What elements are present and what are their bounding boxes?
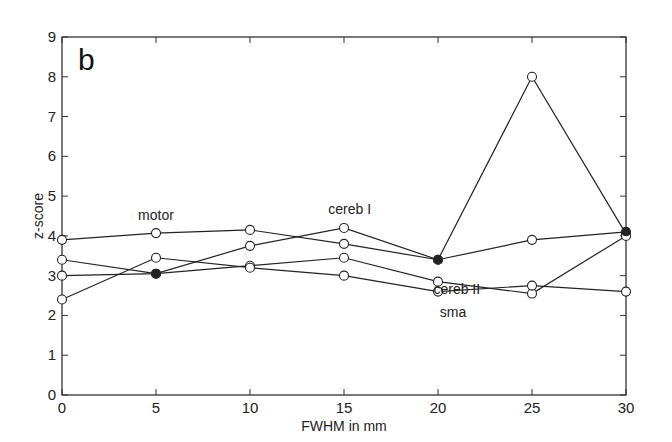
panel-label: b bbox=[78, 43, 95, 76]
y-tick-label: 0 bbox=[48, 386, 56, 403]
y-tick-label: 3 bbox=[48, 267, 56, 284]
data-marker bbox=[340, 239, 349, 248]
data-marker bbox=[58, 295, 67, 304]
x-tick-label: 25 bbox=[524, 399, 541, 416]
series-lines bbox=[58, 72, 631, 304]
data-marker bbox=[58, 255, 67, 264]
data-marker bbox=[528, 235, 537, 244]
y-tick-label: 4 bbox=[48, 227, 56, 244]
data-marker-filled bbox=[622, 228, 630, 236]
y-tick-label: 6 bbox=[48, 147, 56, 164]
data-marker bbox=[58, 235, 67, 244]
series-annotation: motor bbox=[138, 207, 174, 223]
x-tick-label: 10 bbox=[242, 399, 259, 416]
x-tick-label: 20 bbox=[430, 399, 447, 416]
data-marker bbox=[58, 271, 67, 280]
data-marker bbox=[528, 281, 537, 290]
data-marker bbox=[246, 241, 255, 250]
y-tick-label: 8 bbox=[48, 68, 56, 85]
y-tick-label: 9 bbox=[48, 28, 56, 45]
data-marker bbox=[340, 253, 349, 262]
data-marker bbox=[340, 271, 349, 280]
data-marker bbox=[246, 263, 255, 272]
x-tick-label: 5 bbox=[152, 399, 160, 416]
series-annotation: cereb II bbox=[433, 281, 480, 297]
line-chart: 0510152025300123456789 motorcereb Icereb… bbox=[0, 0, 672, 442]
data-marker bbox=[246, 225, 255, 234]
axis-ticks: 0510152025300123456789 bbox=[48, 28, 635, 416]
series-annotation: sma bbox=[440, 304, 467, 320]
y-axis-title: z-score bbox=[30, 193, 46, 239]
x-tick-label: 15 bbox=[336, 399, 353, 416]
data-marker-filled bbox=[152, 270, 160, 278]
series-annotation: cereb I bbox=[328, 201, 371, 217]
y-tick-label: 5 bbox=[48, 187, 56, 204]
y-tick-label: 2 bbox=[48, 306, 56, 323]
data-marker bbox=[152, 229, 161, 238]
y-tick-label: 7 bbox=[48, 108, 56, 125]
data-marker-filled bbox=[434, 256, 442, 264]
data-marker bbox=[340, 223, 349, 232]
x-tick-label: 0 bbox=[58, 399, 66, 416]
data-marker bbox=[622, 287, 631, 296]
y-tick-label: 1 bbox=[48, 346, 56, 363]
x-axis-title: FWHM in mm bbox=[301, 418, 387, 434]
data-marker bbox=[528, 72, 537, 81]
data-marker bbox=[152, 253, 161, 262]
x-tick-label: 30 bbox=[618, 399, 635, 416]
